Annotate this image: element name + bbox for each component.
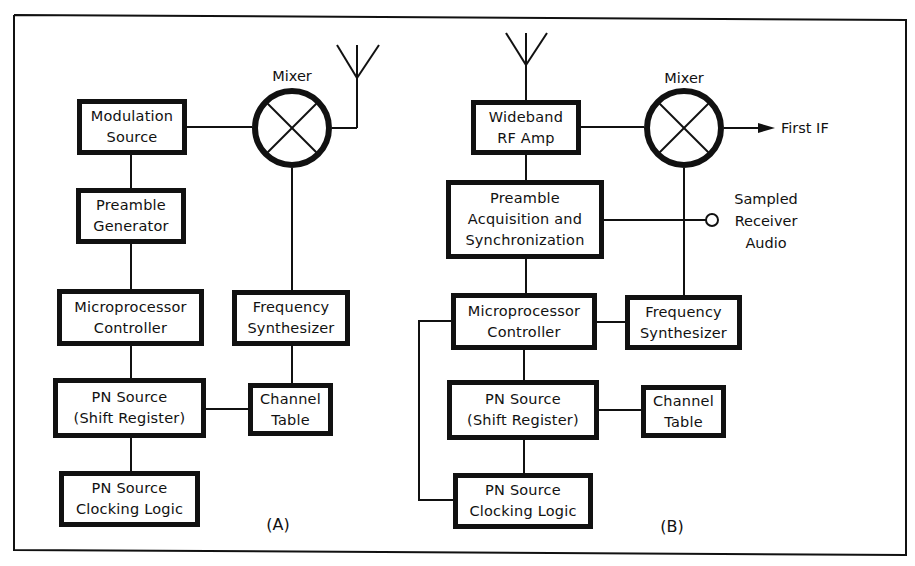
block-text: (Shift Register) (467, 410, 579, 431)
block-pn-source-shift-register-b: PN Source (Shift Register) (447, 380, 599, 440)
block-text: RF Amp (497, 128, 554, 149)
block-text: PN Source (92, 478, 168, 499)
block-preamble-generator: Preamble Generator (76, 188, 186, 244)
block-text: PN Source (485, 389, 561, 410)
antenna-icon (506, 33, 547, 65)
block-text: Channel (653, 391, 714, 412)
block-microprocessor-controller-b: Microprocessor Controller (451, 293, 597, 350)
label-line: Receiver (726, 210, 806, 232)
block-microprocessor-controller: Microprocessor Controller (57, 289, 204, 346)
block-text: Frequency (253, 297, 330, 318)
block-wideband-rf-amp: Wideband RF Amp (471, 100, 581, 155)
mixer-label-a: Mixer (262, 66, 322, 87)
output-terminal-icon (706, 214, 718, 226)
block-text: Source (106, 127, 157, 148)
block-text: Clocking Logic (469, 501, 576, 522)
block-text: Microprocessor (468, 301, 580, 322)
block-text: (Shift Register) (74, 408, 186, 429)
mixer-icon (647, 91, 721, 165)
block-text: Synthesizer (640, 323, 727, 344)
block-text: Synchronization (465, 230, 584, 251)
block-text: Channel (260, 389, 321, 410)
block-frequency-synthesizer: Frequency Synthesizer (232, 290, 350, 346)
block-modulation-source: Modulation Source (77, 99, 187, 155)
block-text: Controller (94, 318, 167, 339)
arrow-right-icon (758, 123, 775, 133)
block-text: Clocking Logic (76, 499, 183, 520)
block-text: Generator (93, 216, 168, 237)
block-pn-source-clocking-logic-b: PN Source Clocking Logic (453, 473, 593, 529)
antenna-icon (337, 45, 379, 78)
mixer-label-b: Mixer (654, 68, 714, 89)
block-text: Wideband (489, 107, 563, 128)
block-text: PN Source (485, 480, 561, 501)
block-channel-table: Channel Table (248, 383, 333, 436)
block-text: Frequency (645, 302, 722, 323)
first-if-label: First IF (781, 118, 841, 139)
block-preamble-acquisition: Preamble Acquisition and Synchronization (446, 180, 604, 259)
block-frequency-synthesizer-b: Frequency Synthesizer (625, 295, 742, 350)
block-text: Table (271, 410, 310, 431)
block-text: Controller (487, 322, 560, 343)
block-text: Modulation (91, 106, 173, 127)
block-pn-source-clocking-logic: PN Source Clocking Logic (59, 471, 200, 527)
block-pn-source-shift-register: PN Source (Shift Register) (53, 378, 206, 438)
panel-caption-b: (B) (652, 516, 692, 537)
block-text: Acquisition and (468, 209, 582, 230)
block-text: Microprocessor (74, 297, 186, 318)
block-text: Preamble (490, 188, 560, 209)
block-text: PN Source (92, 387, 168, 408)
panel-caption-a: (A) (258, 514, 298, 535)
block-text: Preamble (96, 195, 166, 216)
block-text: Table (664, 412, 703, 433)
sampled-audio-label: Sampled Receiver Audio (726, 188, 806, 254)
block-channel-table-b: Channel Table (641, 385, 726, 438)
label-line: Audio (726, 232, 806, 254)
label-line: Sampled (726, 188, 806, 210)
block-text: Synthesizer (247, 318, 334, 339)
mixer-icon (255, 91, 329, 165)
